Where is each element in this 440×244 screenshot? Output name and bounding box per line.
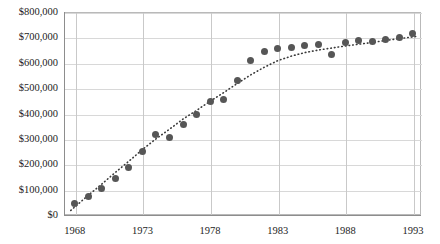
- y-axis-tick-label: $800,000: [19, 7, 58, 18]
- data-point-marker: [207, 98, 214, 105]
- x-axis-tick-label: 1968: [45, 226, 105, 237]
- data-point-marker: [369, 38, 376, 45]
- data-point-marker: [261, 48, 268, 55]
- data-point-marker: [288, 44, 295, 51]
- gridline-horizontal: [65, 165, 422, 166]
- gridline-horizontal: [65, 115, 422, 116]
- data-point-marker: [193, 111, 200, 118]
- data-point-marker: [166, 134, 173, 141]
- x-axis-tick-label: 1993: [383, 226, 440, 237]
- x-axis-tick-label: 1973: [112, 226, 172, 237]
- gridline-vertical: [279, 13, 280, 216]
- y-axis-tick-label: $500,000: [19, 83, 58, 94]
- chart-container: $0$100,000$200,000$300,000$400,000$500,0…: [0, 0, 440, 244]
- y-axis-tick-label: $700,000: [19, 32, 58, 43]
- y-axis-tick-label: $200,000: [19, 159, 58, 170]
- gridline-horizontal: [65, 140, 422, 141]
- gridline-horizontal: [65, 191, 422, 192]
- y-axis-tick-label: $300,000: [19, 134, 58, 145]
- data-point-marker: [180, 121, 187, 128]
- gridline-vertical: [414, 13, 415, 216]
- gridline-vertical: [211, 13, 212, 216]
- y-axis-tick-label: $0: [48, 210, 59, 221]
- data-point-marker: [315, 41, 322, 48]
- plot-area: [64, 12, 421, 215]
- data-point-marker: [71, 200, 78, 207]
- x-axis-tick-label: 1988: [315, 226, 375, 237]
- y-axis-line: [64, 12, 65, 215]
- data-point-marker: [234, 77, 241, 84]
- x-axis-tick-label: 1983: [248, 226, 308, 237]
- gridline-vertical: [143, 13, 144, 216]
- x-axis-tick-label: 1978: [180, 226, 240, 237]
- gridline-horizontal: [65, 89, 422, 90]
- y-axis-tick-label: $600,000: [19, 58, 58, 69]
- gridline-horizontal: [65, 13, 422, 14]
- y-axis-tick-label: $400,000: [19, 109, 58, 120]
- gridline-horizontal: [65, 64, 422, 65]
- gridline-vertical: [76, 13, 77, 216]
- data-point-marker: [139, 148, 146, 155]
- data-point-marker: [85, 193, 92, 200]
- y-axis-tick-label: $100,000: [19, 185, 58, 196]
- x-axis-line: [64, 215, 421, 216]
